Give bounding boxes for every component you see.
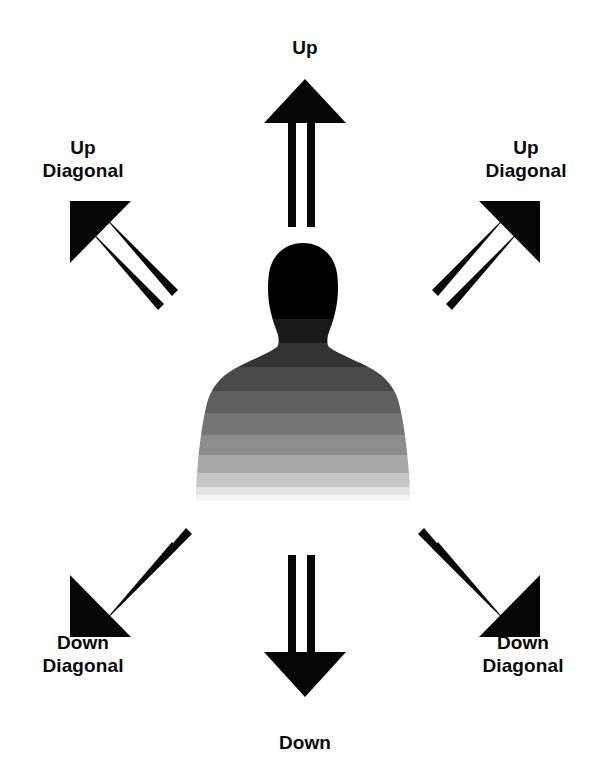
person-silhouette-gradient — [196, 243, 410, 501]
arrow-down-left-shaft-lower — [115, 528, 192, 611]
arrow-down-head — [264, 652, 346, 697]
label-down-diagonal-left: Down Diagonal — [13, 631, 153, 677]
arrow-down-right-icon — [418, 528, 540, 637]
arrow-up-right-head — [479, 201, 540, 263]
arrow-down-icon — [264, 555, 346, 697]
arrow-up-right-icon — [432, 201, 540, 310]
arrow-down-right-shaft-lower — [418, 528, 495, 611]
label-down-diagonal-right: Down Diagonal — [448, 631, 598, 677]
label-up-diagonal-right: Up Diagonal — [456, 136, 596, 182]
arrow-up-left-head — [70, 201, 131, 263]
person-silhouette — [196, 243, 410, 501]
arrow-up-shaft-left — [288, 120, 296, 227]
arrow-down-shaft-left — [288, 555, 296, 655]
label-down: Down — [255, 731, 355, 754]
direction-diagram-canvas: Up Down Up Diagonal Up Diagonal Down Dia… — [0, 0, 610, 775]
arrow-down-left-icon — [70, 528, 192, 637]
arrow-down-right-head — [479, 575, 540, 637]
arrow-up-icon — [264, 79, 346, 227]
label-up-diagonal-left: Up Diagonal — [13, 136, 153, 182]
arrow-up-left-icon — [70, 201, 178, 310]
arrow-down-left-head — [70, 575, 131, 637]
arrow-up-shaft-right — [307, 120, 315, 227]
arrow-up-head — [264, 79, 346, 123]
label-up: Up — [255, 36, 355, 59]
arrow-down-shaft-right — [307, 555, 315, 655]
